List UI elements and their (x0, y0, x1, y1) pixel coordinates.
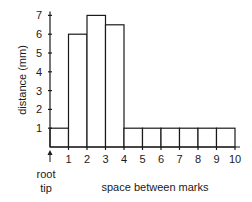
x-tick-label: 6 (158, 153, 164, 165)
y-axis-title: distance (mm) (16, 45, 28, 115)
x-tick-label: 4 (121, 153, 127, 165)
bar (217, 128, 236, 147)
x-tick-label: 7 (176, 153, 182, 165)
bar (106, 25, 125, 147)
y-tick-label: 1 (36, 122, 42, 134)
x-tick-label: 2 (84, 153, 90, 165)
bar (124, 128, 143, 147)
bar (69, 34, 88, 147)
y-tick-label: 6 (36, 28, 42, 40)
y-tick-label: 2 (36, 103, 42, 115)
bar-chart: 123456712345678910roottipspace between m… (0, 0, 252, 202)
x-tick-label: 3 (102, 153, 108, 165)
bar (161, 128, 180, 147)
x-tick-label: 5 (139, 153, 145, 165)
x-axis-title: space between marks (102, 181, 209, 193)
y-tick-label: 7 (36, 9, 42, 21)
bar (180, 128, 199, 147)
y-tick-label: 5 (36, 47, 42, 59)
origin-label: tip (40, 182, 52, 194)
x-tick-label: 1 (65, 153, 71, 165)
origin-label: root (37, 168, 56, 180)
bar (87, 15, 106, 147)
bars-group (50, 15, 235, 147)
bar (198, 128, 217, 147)
bar (50, 128, 69, 147)
y-tick-label: 4 (36, 66, 42, 78)
x-tick-label: 10 (229, 153, 241, 165)
arrowhead-icon (48, 150, 53, 155)
y-tick-label: 3 (36, 85, 42, 97)
x-tick-label: 8 (195, 153, 201, 165)
x-tick-label: 9 (213, 153, 219, 165)
bar (143, 128, 162, 147)
